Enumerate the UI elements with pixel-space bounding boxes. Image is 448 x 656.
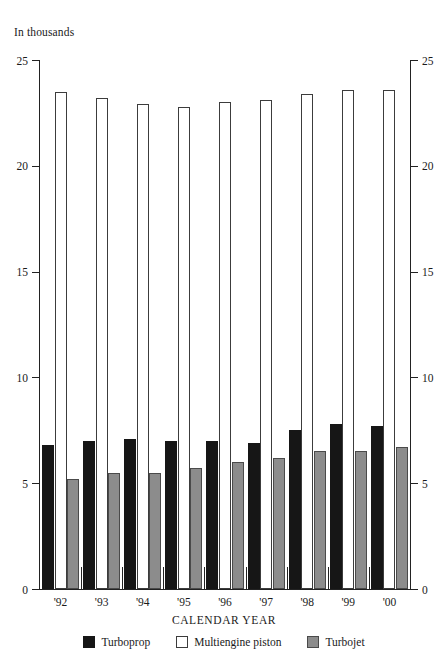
bar <box>165 441 177 589</box>
chart-figure: In thousands 0510152025 0510152025 '92'9… <box>0 0 448 656</box>
bar <box>149 473 161 589</box>
legend-label: Turboprop <box>101 636 150 648</box>
bar <box>219 102 231 589</box>
bar <box>396 447 408 589</box>
y-tick-label-left-10: 10 <box>17 373 29 385</box>
x-axis-tick-labels: '92'93'94'95'96'97'98'99'00 <box>39 596 411 614</box>
bar-groups-layer <box>40 61 410 589</box>
y-tick-label-left-20: 20 <box>17 161 29 173</box>
bar-group <box>328 61 369 589</box>
bar <box>67 479 79 589</box>
bar <box>55 92 67 589</box>
bar <box>108 473 120 589</box>
bar <box>342 90 354 589</box>
legend-swatch-turboprop-icon <box>83 636 95 648</box>
y-tick-left-10 <box>32 377 40 378</box>
x-axis-title: CALENDAR YEAR <box>0 614 448 626</box>
y-tick-left-15 <box>32 272 40 273</box>
bar <box>355 451 367 589</box>
bar <box>314 451 326 589</box>
y-tick-left-25 <box>32 60 40 61</box>
y-tick-label-right-15: 15 <box>422 267 434 279</box>
bar-group <box>40 61 81 589</box>
bar-group <box>204 61 245 589</box>
bar-group <box>246 61 287 589</box>
x-tick-label: '94 <box>136 596 150 608</box>
bar-group <box>81 61 122 589</box>
bar <box>83 441 95 589</box>
x-tick-label: '97 <box>259 596 273 608</box>
bar <box>178 107 190 589</box>
bar <box>42 445 54 589</box>
legend-item-turbojet: Turbojet <box>307 636 364 648</box>
bar <box>289 430 301 589</box>
y-tick-right-10 <box>410 377 418 378</box>
x-tick-label: '95 <box>177 596 191 608</box>
y-tick-left-0 <box>32 589 40 590</box>
bar <box>96 98 108 589</box>
y-tick-label-right-20: 20 <box>422 161 434 173</box>
legend-label: Turbojet <box>325 636 364 648</box>
y-tick-label-left-25: 25 <box>17 56 29 68</box>
bar <box>260 100 272 589</box>
x-tick-label: '93 <box>95 596 109 608</box>
y-tick-label-right-25: 25 <box>422 56 434 68</box>
y-tick-label-right-5: 5 <box>422 479 428 491</box>
x-tick-label: '92 <box>54 596 68 608</box>
bar <box>383 90 395 589</box>
y-tick-right-25 <box>410 60 418 61</box>
y-tick-right-0 <box>410 589 418 590</box>
bar <box>273 458 285 589</box>
units-caption: In thousands <box>14 26 74 38</box>
bar-group <box>122 61 163 589</box>
y-tick-left-20 <box>32 166 40 167</box>
x-tick-label: '99 <box>342 596 356 608</box>
bar <box>301 94 313 589</box>
y-axis-right-line <box>410 61 411 590</box>
legend-item-piston: Multiengine piston <box>176 636 281 648</box>
legend-item-turboprop: Turboprop <box>83 636 150 648</box>
y-tick-label-left-0: 0 <box>22 585 28 597</box>
legend-label: Multiengine piston <box>194 636 281 648</box>
legend-swatch-turbojet-icon <box>307 636 319 648</box>
bar-group <box>163 61 204 589</box>
legend-swatch-piston-icon <box>176 636 188 648</box>
y-tick-label-left-5: 5 <box>22 479 28 491</box>
bar <box>371 426 383 589</box>
bar <box>330 424 342 589</box>
y-tick-left-5 <box>32 483 40 484</box>
x-tick-label: '98 <box>300 596 314 608</box>
x-tick-label: '96 <box>218 596 232 608</box>
chart-legend: TurbopropMultiengine pistonTurbojet <box>0 636 448 648</box>
x-axis-baseline <box>39 589 411 590</box>
bar <box>232 462 244 589</box>
bar-group <box>287 61 328 589</box>
y-tick-right-5 <box>410 483 418 484</box>
bar <box>248 443 260 589</box>
x-tick-label: '00 <box>383 596 397 608</box>
y-tick-right-20 <box>410 166 418 167</box>
y-tick-label-right-10: 10 <box>422 373 434 385</box>
bar <box>124 439 136 589</box>
bar <box>190 468 202 589</box>
y-tick-right-15 <box>410 272 418 273</box>
bar <box>206 441 218 589</box>
bar-group <box>369 61 410 589</box>
bar <box>137 104 149 589</box>
plot-area: 0510152025 0510152025 <box>39 61 411 590</box>
y-tick-label-left-15: 15 <box>17 267 29 279</box>
y-tick-label-right-0: 0 <box>422 585 428 597</box>
